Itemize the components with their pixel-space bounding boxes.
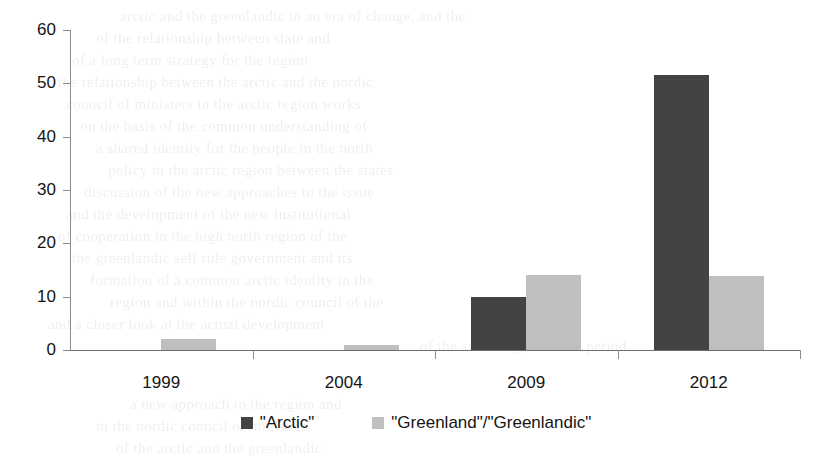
bar	[344, 345, 399, 350]
x-axis-category-label: 1999	[70, 374, 253, 391]
chart-legend: "Arctic""Greenland"/"Greenlandic"	[0, 414, 832, 431]
y-axis-tick-mark	[63, 30, 70, 31]
bar	[526, 275, 581, 350]
y-axis-tick-mark	[63, 350, 70, 351]
legend-label: "Arctic"	[260, 414, 315, 431]
x-axis-category-label: 2009	[435, 374, 618, 391]
y-axis-tick-label: 30	[12, 181, 56, 198]
bar	[471, 297, 526, 350]
x-axis-category-label: 2012	[618, 374, 801, 391]
x-axis-tick-mark	[800, 350, 801, 359]
y-axis-line	[70, 30, 71, 351]
y-axis-tick-label: 10	[12, 288, 56, 305]
y-axis-tick-label: 20	[12, 234, 56, 251]
x-axis-category-label: 2004	[253, 374, 436, 391]
bar	[161, 339, 216, 350]
legend-item: "Greenland"/"Greenlandic"	[372, 414, 591, 431]
bar-chart: 0102030405060 1999200420092012 "Arctic""…	[0, 0, 832, 457]
y-axis-tick-label: 50	[12, 74, 56, 91]
legend-swatch-icon	[241, 417, 253, 429]
y-axis-tick-mark	[63, 137, 70, 138]
y-axis-tick-mark	[63, 83, 70, 84]
legend-swatch-icon	[372, 417, 384, 429]
legend-label: "Greenland"/"Greenlandic"	[391, 414, 591, 431]
x-axis-tick-mark	[618, 350, 619, 359]
bar	[654, 75, 709, 350]
bar	[709, 276, 764, 350]
legend-item: "Arctic"	[241, 414, 315, 431]
x-axis-tick-mark	[253, 350, 254, 359]
y-axis-tick-mark	[63, 297, 70, 298]
y-axis-tick-label: 60	[12, 21, 56, 38]
y-axis-tick-mark	[63, 243, 70, 244]
x-axis-tick-mark	[435, 350, 436, 359]
y-axis-tick-mark	[63, 190, 70, 191]
y-axis-tick-label: 40	[12, 128, 56, 145]
y-axis-tick-label: 0	[12, 341, 56, 358]
